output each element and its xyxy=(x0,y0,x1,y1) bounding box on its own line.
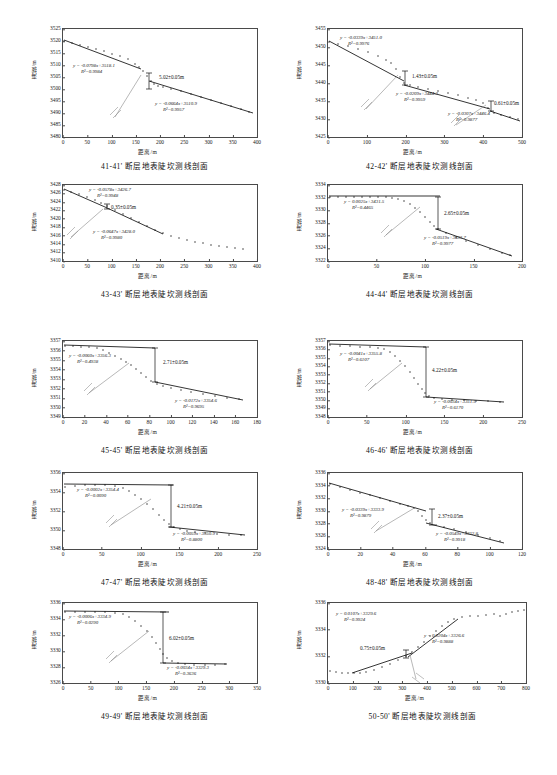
y-tick: 3356 xyxy=(50,470,63,475)
y-tick: 3351 xyxy=(50,395,63,400)
y-tick: 3354 xyxy=(50,367,63,372)
y-tick: 3356 xyxy=(315,347,328,352)
y-tick: 3353 xyxy=(315,372,328,377)
y-tick: 3334 xyxy=(315,182,328,187)
regression-annotation-1: y = -0.0578x+3426.7 R²=0.9948 xyxy=(89,187,131,199)
x-axis-label: 距离/m xyxy=(138,694,157,702)
y-axis-label: 海拔/m xyxy=(295,630,303,649)
fit-line-1 xyxy=(64,611,169,612)
profile-panel-46: 海拔/m 3357 3356 3355 3354 3353 3352 3351 … xyxy=(295,336,545,486)
y-tick: 3332 xyxy=(315,195,328,200)
y-tick: 3428 xyxy=(50,182,63,187)
y-tick: 3334 xyxy=(315,627,328,632)
profile-panel-41: 海拔/m 3525 3520 3515 3510 3505 3500 3495 … xyxy=(30,22,280,172)
y-axis-label: 海拔/m xyxy=(30,500,38,519)
y-tick: 3354 xyxy=(50,489,63,494)
regression-annotation-1: y = -0.0006x+3334.9 R²=0.0290 xyxy=(69,614,111,626)
y-axis-label: 海拔/m xyxy=(30,630,38,649)
y-tick: 3352 xyxy=(50,508,63,513)
offset-bar xyxy=(160,612,166,663)
y-tick: 3326 xyxy=(315,534,328,539)
fault-leader-1 xyxy=(366,75,398,109)
regression-annotation-1: y = 0.0107x+3329.6 R²=0.9924 xyxy=(336,611,376,623)
y-tick: 3412 xyxy=(50,250,63,255)
fit-line-1 xyxy=(329,41,404,81)
y-tick: 3328 xyxy=(315,220,328,225)
plot-area: 3356 3354 3352 3350 3348 0 50 100 150 20… xyxy=(62,472,258,550)
panel-caption: 45-45' 断层地表陡坎测线剖面 xyxy=(30,444,280,455)
profile-plot xyxy=(63,29,259,139)
y-tick: 3350 xyxy=(50,405,63,410)
fault-leader xyxy=(89,363,129,393)
profile-panel-48: 海拔/m 3336 3334 3332 3330 3328 3326 3324 … xyxy=(295,468,545,618)
y-tick: 3336 xyxy=(315,470,328,475)
y-tick: 3505 xyxy=(50,74,63,79)
profile-panel-45: 海拔/m 3357 3356 3355 3354 3353 3352 3351 … xyxy=(30,336,280,486)
y-tick: 3414 xyxy=(50,241,63,246)
panel-caption: 42-42' 断层地表陡坎测线剖面 xyxy=(295,160,545,171)
plot-area: 3357 3356 3355 3354 3353 3352 3351 3350 … xyxy=(62,340,258,418)
y-tick: 3332 xyxy=(315,496,328,501)
y-tick: 3330 xyxy=(315,208,328,213)
x-axis-label: 距离/m xyxy=(138,148,157,156)
fault-hatch xyxy=(412,673,424,683)
plot-area: 3336 3334 3332 3330 3328 3326 3324 0 20 … xyxy=(327,472,523,550)
y-axis-label: 海拔/m xyxy=(295,60,303,79)
y-tick: 3500 xyxy=(50,86,63,91)
y-tick: 3334 xyxy=(50,616,63,621)
scarp-offset-label-1: 1.43±0.05m xyxy=(412,73,437,79)
regression-annotation-1: y = -0.0041x+3355.8 R²=0.6107 xyxy=(340,351,382,363)
data-points xyxy=(328,41,518,119)
regression-annotation-1: y = -0.0339x+3451.0 R²=0.9976 xyxy=(340,35,382,47)
y-tick: 3350 xyxy=(50,527,63,532)
regression-annotation-2: y = 0.0204x+3326.6 R²=0.9888 xyxy=(424,633,464,645)
x-axis-label: 距离/m xyxy=(138,560,157,568)
panel-caption: 50-50' 断层地表陡坎测线剖面 xyxy=(295,710,550,721)
fault-leader xyxy=(111,499,151,525)
panel-caption: 47-47' 断层地表陡坎测线剖面 xyxy=(30,576,280,587)
scarp-offset-label: 0.75±0.05m xyxy=(360,645,385,651)
x-axis-label: 距离/m xyxy=(403,560,422,568)
regression-annotation-2: y = -0.0059x+3350.9 R²=0.8800 xyxy=(173,531,215,543)
regression-annotation-3: y = -0.0307x+3446.4 R²=0.9877 xyxy=(448,111,490,123)
scarp-offset-label: 2.71±0.05m xyxy=(163,359,188,365)
fault-hatch xyxy=(84,383,95,395)
regression-annotation-1: y = 0.0025x+3431.5 R²=0.4465 xyxy=(344,199,384,211)
regression-annotation-2: y = -0.0519x+3433.7 R²=0.9977 xyxy=(424,235,466,247)
regression-annotation-1: y = -0.0002x+3354.4 R²=0.0090 xyxy=(77,487,119,499)
panel-caption: 41-41' 断层地表陡坎测线剖面 xyxy=(30,160,280,171)
y-tick: 3324 xyxy=(315,246,328,251)
y-tick: 3440 xyxy=(315,80,328,85)
y-tick: 3420 xyxy=(50,216,63,221)
y-tick: 3510 xyxy=(50,62,63,67)
scarp-offset-label: 6.02±0.05m xyxy=(169,635,194,641)
x-axis-label: 距离/m xyxy=(405,694,424,702)
regression-annotation-2: y = -0.0209x+3444.3 R²=0.9959 xyxy=(396,91,438,103)
y-tick: 3355 xyxy=(315,355,328,360)
y-tick: 3495 xyxy=(50,98,63,103)
y-tick: 3336 xyxy=(315,600,328,605)
y-tick: 3485 xyxy=(50,122,63,127)
fault-hatch xyxy=(381,225,392,237)
fault-leader xyxy=(370,363,402,389)
y-tick: 3354 xyxy=(315,364,328,369)
profile-panel-47: 海拔/m 3356 3354 3352 3350 3348 0 50 100 1… xyxy=(30,468,280,618)
y-tick: 3525 xyxy=(50,26,63,31)
regression-annotation-2: y = -0.0172x+3354.6 R²=0.9695 xyxy=(175,398,217,410)
panel-caption: 43-43' 断层地表陡坎测线剖面 xyxy=(30,288,280,299)
scarp-offset-label: 2.65±0.05m xyxy=(444,210,469,216)
y-tick: 3328 xyxy=(50,664,63,669)
x-axis-label: 距离/m xyxy=(403,428,422,436)
y-tick: 3336 xyxy=(50,600,63,605)
offset-bar-1 xyxy=(402,71,408,85)
y-tick: 3418 xyxy=(50,224,63,229)
x-axis-label: 距离/m xyxy=(403,272,422,280)
profile-plot xyxy=(63,473,259,551)
y-axis-label: 海拔/m xyxy=(295,212,303,231)
figure-sheet: 海拔/m 3525 3520 3515 3510 3505 3500 3495 … xyxy=(0,0,557,775)
x-axis-label: 距离/m xyxy=(403,148,422,156)
y-axis-label: 海拔/m xyxy=(30,60,38,79)
y-tick: 3332 xyxy=(50,632,63,637)
y-tick: 3450 xyxy=(315,44,328,49)
regression-annotation-2: y = -0.0664x+3510.9 R²=0.9957 xyxy=(155,101,197,113)
